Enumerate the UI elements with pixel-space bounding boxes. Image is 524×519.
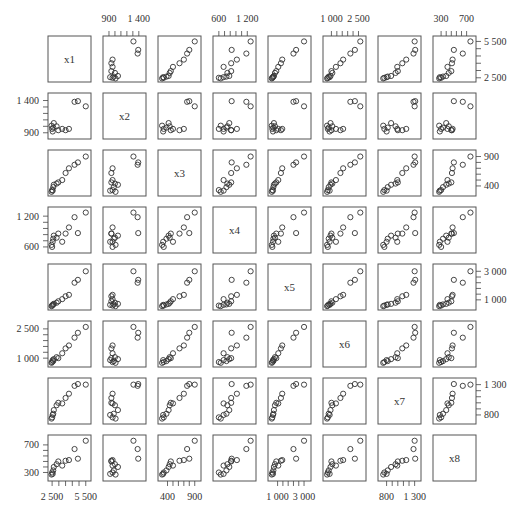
scatter-panel-x1-vs-x3 [158, 36, 201, 82]
diagonal-panel-x8: x8 [433, 435, 476, 481]
bottom-axis-tick-label: 3 000 [293, 491, 316, 502]
diagonal-panel-x6: x6 [323, 321, 366, 367]
scatterplot-matrix: x1x2x3x4x5x6x7x89001 4006001 2001 0002 5… [0, 0, 524, 519]
top-axis-tick-label: 1 200 [236, 13, 259, 24]
scatter-panel-x7-vs-x4 [213, 378, 256, 424]
variable-label: x1 [64, 53, 75, 65]
diagonal-panel-x3: x3 [158, 150, 201, 196]
scatter-panel-x1-vs-x2 [103, 36, 146, 82]
scatter-panel-x2-vs-x5 [268, 93, 311, 139]
diagonal-panel-x2: x2 [103, 93, 146, 139]
bottom-axis-tick-label: 1 000 [266, 491, 289, 502]
variable-label: x8 [449, 452, 461, 464]
variable-label: x6 [339, 338, 351, 350]
scatter-panel-x8-vs-x6 [323, 435, 366, 481]
scatter-panel-x8-vs-x5 [268, 435, 311, 481]
right-axis-tick-label: 1 000 [484, 294, 507, 305]
variable-label: x3 [174, 167, 186, 179]
scatter-panel-x4-vs-x1 [48, 207, 91, 253]
scatter-panel-x4-vs-x5 [268, 207, 311, 253]
top-axis-tick-label: 2 500 [347, 13, 370, 24]
scatter-panel-x3-vs-x8 [433, 150, 476, 196]
scatter-panel-x3-vs-x2 [103, 150, 146, 196]
scatter-panel-x5-vs-x4 [213, 264, 256, 310]
diagonal-panel-x5: x5 [268, 264, 311, 310]
scatter-panel-x3-vs-x4 [213, 150, 256, 196]
top-axis-tick-label: 700 [459, 13, 474, 24]
scatter-panel-x7-vs-x2 [103, 378, 146, 424]
left-axis-tick-label: 2 500 [17, 323, 40, 334]
bottom-axis-tick-label: 800 [379, 491, 394, 502]
scatter-panel-x1-vs-x5 [268, 36, 311, 82]
top-axis-tick-label: 1 400 [128, 13, 151, 24]
scatter-panel-x8-vs-x1 [48, 435, 91, 481]
scatter-panel-x5-vs-x1 [48, 264, 91, 310]
right-axis-tick-label: 900 [484, 151, 499, 162]
variable-label: x2 [119, 110, 130, 122]
bottom-axis-tick-label: 1 300 [403, 491, 426, 502]
scatter-panel-x4-vs-x3 [158, 207, 201, 253]
right-axis-tick-label: 1 300 [484, 379, 507, 390]
left-axis-tick-label: 700 [24, 439, 39, 450]
bottom-axis-tick-label: 400 [160, 491, 175, 502]
left-axis-tick-label: 1 200 [17, 211, 40, 222]
scatter-panel-x7-vs-x3 [158, 378, 201, 424]
scatter-panel-x3-vs-x7 [378, 150, 421, 196]
scatter-panel-x5-vs-x8 [433, 264, 476, 310]
scatter-panel-x8-vs-x2 [103, 435, 146, 481]
right-axis-tick-label: 800 [484, 409, 499, 420]
bottom-axis-tick-label: 5 500 [75, 491, 98, 502]
right-axis-tick-label: 3 000 [484, 266, 507, 277]
scatter-panel-x8-vs-x7 [378, 435, 421, 481]
top-axis-tick-label: 600 [211, 13, 226, 24]
left-axis-tick-label: 600 [24, 241, 39, 252]
scatter-panel-x3-vs-x5 [268, 150, 311, 196]
scatter-panel-x6-vs-x4 [213, 321, 256, 367]
bottom-axis-tick-label: 900 [187, 491, 202, 502]
scatter-panel-x6-vs-x5 [268, 321, 311, 367]
scatter-panel-x6-vs-x3 [158, 321, 201, 367]
scatter-panel-x7-vs-x6 [323, 378, 366, 424]
left-axis-tick-label: 300 [24, 467, 39, 478]
scatter-panel-x6-vs-x8 [433, 321, 476, 367]
scatter-panel-x7-vs-x5 [268, 378, 311, 424]
scatter-panel-x2-vs-x3 [158, 93, 201, 139]
variable-label: x4 [229, 224, 241, 236]
scatter-panel-x5-vs-x2 [103, 264, 146, 310]
scatter-panel-x2-vs-x4 [213, 93, 256, 139]
scatter-panel-x3-vs-x6 [323, 150, 366, 196]
variable-label: x5 [284, 281, 296, 293]
scatter-panel-x5-vs-x7 [378, 264, 421, 310]
top-axis-tick-label: 900 [101, 13, 116, 24]
scatter-panel-x4-vs-x8 [433, 207, 476, 253]
scatter-panel-x2-vs-x6 [323, 93, 366, 139]
diagonal-panel-x1: x1 [48, 36, 91, 82]
scatter-panel-x7-vs-x1 [48, 378, 91, 424]
scatter-panel-x5-vs-x6 [323, 264, 366, 310]
left-axis-tick-label: 900 [24, 127, 39, 138]
top-axis-tick-label: 1 000 [320, 13, 343, 24]
scatter-panel-x1-vs-x8 [433, 36, 476, 82]
top-axis-tick-label: 300 [434, 13, 449, 24]
right-axis-tick-label: 2 500 [484, 72, 507, 83]
scatter-panel-x6-vs-x7 [378, 321, 421, 367]
scatter-panel-x5-vs-x3 [158, 264, 201, 310]
diagonal-panel-x4: x4 [213, 207, 256, 253]
scatter-panel-x2-vs-x1 [48, 93, 91, 139]
scatter-panel-x2-vs-x8 [433, 93, 476, 139]
scatter-panel-x8-vs-x3 [158, 435, 201, 481]
variable-label: x7 [394, 395, 406, 407]
diagonal-panel-x7: x7 [378, 378, 421, 424]
left-axis-tick-label: 1 000 [17, 353, 40, 364]
scatter-panel-x1-vs-x6 [323, 36, 366, 82]
scatter-panel-x4-vs-x7 [378, 207, 421, 253]
scatter-panel-x4-vs-x6 [323, 207, 366, 253]
scatter-panel-x2-vs-x7 [378, 93, 421, 139]
right-axis-tick-label: 400 [484, 180, 499, 191]
scatter-panel-x1-vs-x4 [213, 36, 256, 82]
scatter-panel-x1-vs-x7 [378, 36, 421, 82]
scatter-panel-x7-vs-x8 [433, 378, 476, 424]
scatter-panel-x6-vs-x1 [48, 321, 91, 367]
scatter-panel-x6-vs-x2 [103, 321, 146, 367]
right-axis-tick-label: 5 500 [484, 36, 507, 47]
